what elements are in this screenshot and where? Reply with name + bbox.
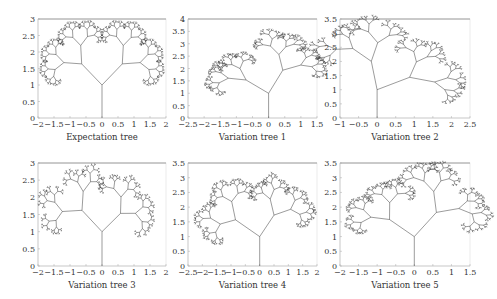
y-tick-label: 1.5: [22, 211, 35, 220]
y-tick-label: 3: [30, 15, 35, 24]
x-tick-label: 2: [314, 268, 319, 277]
x-tick-label: 2: [163, 268, 168, 277]
subplot-1: −2−1.5−1−0.500.511.5200.511.522.53Expect…: [22, 15, 168, 142]
plot-frame: [188, 19, 317, 118]
subplot-title: Variation tree 3: [67, 280, 135, 290]
x-tick-label: −1: [230, 120, 242, 129]
y-tick-label: 0.5: [22, 98, 35, 107]
y-tick-label: 3.5: [172, 27, 185, 36]
y-tick-label: 3: [332, 174, 337, 183]
x-tick-label: 1: [131, 120, 136, 129]
x-tick-label: −1: [371, 268, 383, 277]
subplot-4: −2−1.5−1−0.500.511.5200.511.522.53Variat…: [22, 159, 168, 290]
y-tick-label: 0.5: [324, 247, 337, 256]
y-tick-label: 2: [180, 65, 185, 74]
y-tick-label: 0: [30, 262, 35, 271]
x-tick-label: −1.5: [211, 120, 230, 129]
y-tick-label: 0.5: [324, 100, 337, 109]
y-tick-label: 1.5: [172, 77, 185, 86]
y-tick-label: 1.5: [172, 218, 185, 227]
x-tick-label: −0.5: [236, 268, 255, 277]
subplot-5: −2.5−2−1.5−1−0.500.511.5200.511.522.533.…: [172, 159, 319, 290]
x-tick-label: 1: [298, 120, 303, 129]
x-tick-label: 1.5: [144, 268, 157, 277]
x-tick-label: 1.5: [426, 120, 439, 129]
x-tick-label: 0: [412, 268, 417, 277]
x-tick-label: 0.5: [278, 120, 291, 129]
y-tick-label: 0.5: [172, 247, 185, 256]
y-tick-label: 2.5: [324, 188, 337, 197]
y-tick-label: 0.5: [22, 245, 35, 254]
y-tick-label: 0: [180, 114, 185, 123]
fractal-tree: [38, 164, 155, 267]
y-tick-label: 3: [180, 174, 185, 183]
x-tick-label: 0.5: [112, 268, 125, 277]
fractal-tree: [194, 172, 317, 266]
y-tick-label: 2: [30, 48, 35, 57]
x-tick-label: 0.5: [112, 120, 125, 129]
y-tick-label: 2: [332, 57, 337, 66]
x-tick-label: −2: [198, 120, 210, 129]
x-tick-label: 0: [99, 268, 104, 277]
x-tick-label: 0: [257, 268, 262, 277]
y-tick-label: 0: [332, 262, 337, 271]
x-tick-label: −0.5: [243, 120, 262, 129]
subplot-title: Variation tree 5: [370, 280, 438, 290]
y-tick-label: 3.5: [324, 159, 337, 168]
subplot-title: Expectation tree: [66, 132, 138, 142]
x-tick-label: 2: [163, 120, 168, 129]
y-tick-label: 1: [30, 228, 35, 237]
y-tick-label: 0: [30, 114, 35, 123]
x-tick-label: −0.5: [349, 120, 368, 129]
x-tick-label: 0.5: [268, 268, 281, 277]
y-tick-label: 1: [180, 89, 185, 98]
subplot-title: Variation tree 1: [218, 132, 286, 142]
subplot-3: −1−0.500.511.522.500.511.522.533.5Variat…: [309, 15, 476, 142]
x-tick-label: 0.5: [389, 120, 402, 129]
plot-frame: [340, 163, 470, 266]
y-tick-label: 1: [332, 233, 337, 242]
y-tick-label: 3: [30, 159, 35, 168]
subplot-title: Variation tree 4: [218, 280, 286, 290]
y-tick-label: 2: [332, 203, 337, 212]
x-tick-label: 1: [412, 120, 417, 129]
subplot-2: −2.5−2−1.5−1−0.500.511.500.511.522.533.5…: [172, 15, 328, 142]
x-tick-label: −0.5: [76, 268, 95, 277]
x-tick-label: 1.5: [144, 120, 157, 129]
x-tick-label: 0.5: [426, 268, 439, 277]
y-tick-label: 3: [180, 40, 185, 49]
y-tick-label: 2.5: [22, 176, 35, 185]
x-tick-label: 1: [131, 268, 136, 277]
x-tick-label: −0.5: [386, 268, 405, 277]
x-tick-label: 0: [375, 120, 380, 129]
y-tick-label: 2.5: [22, 32, 35, 41]
x-tick-label: 1.5: [296, 268, 309, 277]
y-tick-label: 2: [30, 193, 35, 202]
y-tick-label: 3.5: [172, 159, 185, 168]
subplot-6: −2−1.5−1−0.500.511.500.511.522.533.5Vari…: [324, 159, 494, 290]
x-tick-label: −1: [64, 268, 76, 277]
y-tick-label: 1.5: [324, 218, 337, 227]
subplot-title: Variation tree 2: [370, 132, 438, 142]
y-tick-label: 0: [180, 262, 185, 271]
y-tick-label: 0.5: [172, 102, 185, 111]
x-tick-label: 0: [266, 120, 271, 129]
x-tick-label: −1.5: [349, 268, 368, 277]
plot-frame: [188, 163, 317, 266]
figure-canvas: −2−1.5−1−0.500.511.5200.511.522.53Expect…: [0, 0, 497, 299]
x-tick-label: −1: [64, 120, 76, 129]
x-tick-label: 1.5: [311, 120, 324, 129]
x-tick-label: −1.5: [44, 268, 63, 277]
y-tick-label: 2: [180, 203, 185, 212]
x-tick-label: 1: [286, 268, 291, 277]
y-tick-label: 1.5: [22, 65, 35, 74]
x-tick-label: −0.5: [76, 120, 95, 129]
x-tick-label: 2: [449, 120, 454, 129]
y-tick-label: 1.5: [324, 72, 337, 81]
x-tick-label: 1.5: [464, 268, 477, 277]
fractal-tree: [39, 20, 164, 118]
y-tick-label: 2.5: [172, 188, 185, 197]
x-tick-label: 0: [99, 120, 104, 129]
y-tick-label: 1: [180, 233, 185, 242]
y-tick-label: 2.5: [172, 52, 185, 61]
